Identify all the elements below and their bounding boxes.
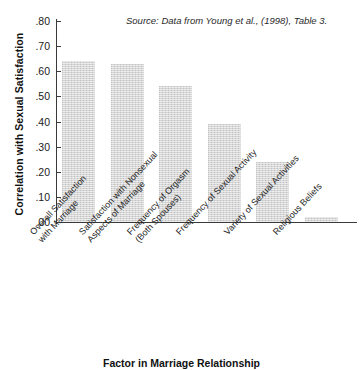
- y-axis-tick-mark: [57, 122, 61, 123]
- y-axis-tick-mark: [57, 197, 61, 198]
- y-axis-tick-mark: [57, 147, 61, 148]
- y-axis-tick-mark: [57, 71, 61, 72]
- x-axis-title: Factor in Marriage Relationship: [0, 357, 363, 369]
- y-axis-tick-mark: [57, 96, 61, 97]
- y-axis-tick-mark: [57, 46, 61, 47]
- x-axis-category-labels: Overall Satisfactionwith MarriageSatisfa…: [0, 222, 363, 350]
- bar-chart-figure: Correlation with Sexual Satisfaction Sou…: [0, 0, 363, 370]
- y-axis-tick-mark: [57, 172, 61, 173]
- y-axis-tick-mark: [57, 222, 61, 223]
- y-axis-tick-mark: [57, 21, 61, 22]
